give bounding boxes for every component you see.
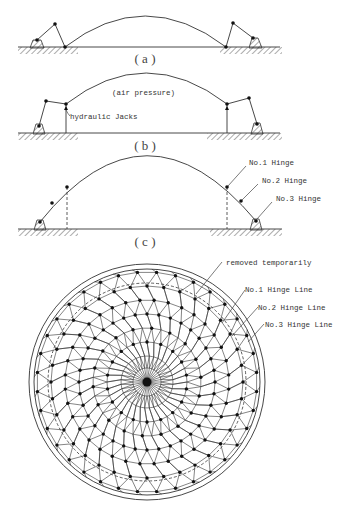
panel-a: ( a ) <box>18 16 282 66</box>
label-hinge-1: No.1 Hinge <box>249 159 294 167</box>
caption-c: ( c ) <box>135 234 156 249</box>
ground-hatch-right <box>210 229 282 236</box>
label-removed-temporarily: removed temporarily <box>226 259 312 267</box>
support-right <box>249 38 262 48</box>
ground-hatch-right <box>207 133 282 140</box>
link-right <box>227 98 257 124</box>
arch <box>40 156 256 222</box>
label-hinge-2: No.2 Hinge <box>262 177 307 185</box>
caption-b: ( b ) <box>134 138 156 153</box>
label-hinge-3: No.3 Hinge <box>276 195 321 203</box>
label-hinge-line-3: No.3 Hinge Line <box>265 321 333 329</box>
link-right <box>226 23 253 47</box>
ground-hatch-left <box>18 133 78 140</box>
leader-hinge-line-1 <box>222 290 245 323</box>
leader-hinge-1 <box>228 166 246 186</box>
label-hinge-line-1: No.1 Hinge Line <box>245 286 313 294</box>
dome-construction-diagram: ( a ) (air pressure) hydraulic Jacks ( b… <box>0 0 351 516</box>
label-hydraulic-jacks: hydraulic Jacks <box>70 113 138 121</box>
link-left <box>39 101 66 126</box>
leader-hinge-2 <box>242 184 258 200</box>
label-hinge-line-2: No.2 Hinge Line <box>258 304 326 312</box>
dome-plan-view: removed temporarily No.1 Hinge Line No.2… <box>29 259 333 500</box>
leader-hinge-3 <box>257 202 272 219</box>
arch <box>65 16 226 47</box>
panel-c: No.1 Hinge No.2 Hinge No.3 Hinge ( c ) <box>18 156 321 249</box>
caption-a: ( a ) <box>135 51 156 66</box>
ground-hatch-left <box>18 47 78 54</box>
label-air-pressure: (air pressure) <box>112 89 175 97</box>
leader-hinge-line-3 <box>248 324 264 342</box>
crown-node <box>143 378 152 387</box>
panel-b: (air pressure) hydraulic Jacks ( b ) <box>18 73 282 153</box>
ground-hatch-left <box>18 229 78 236</box>
